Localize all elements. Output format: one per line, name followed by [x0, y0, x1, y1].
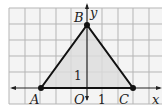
point-b	[84, 22, 90, 28]
y-axis-up-arrow-icon	[85, 3, 89, 9]
point-a	[38, 85, 44, 91]
label-c: C	[119, 92, 129, 107]
origin-label: O	[74, 92, 85, 107]
coordinate-plane: A B C y x O 1 1	[0, 0, 166, 112]
y-tick-label: 1	[74, 69, 82, 83]
x-tick-label: 1	[98, 93, 106, 107]
y-axis-label: y	[89, 5, 98, 20]
label-b: B	[73, 10, 84, 25]
x-axis-label: x	[152, 92, 160, 107]
point-c	[130, 85, 136, 91]
label-a: A	[29, 92, 39, 107]
